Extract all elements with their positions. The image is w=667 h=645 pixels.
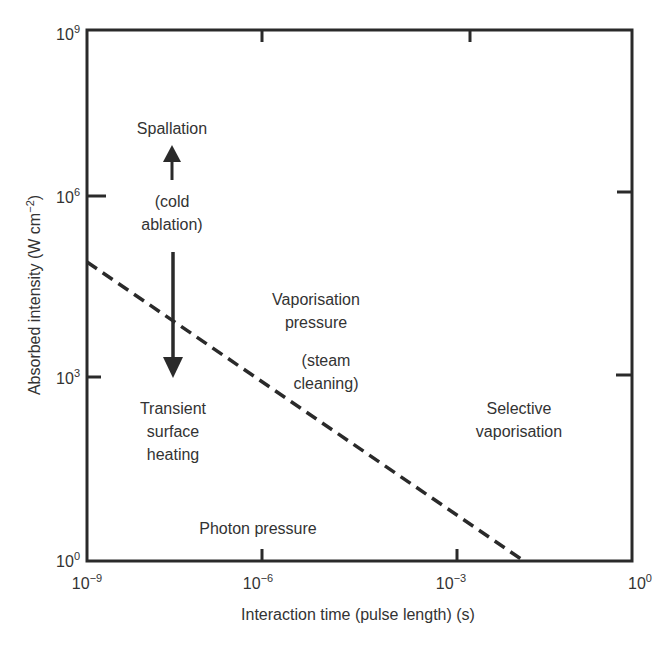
annotation-transient-line3: heating xyxy=(147,446,200,463)
annotation-transient-line2: surface xyxy=(147,423,200,440)
annotation-steam-line1: (steam xyxy=(302,352,351,369)
arrow-up-icon xyxy=(163,145,181,180)
y-tick-label-6: 106 xyxy=(56,186,80,206)
y-tick-label-0: 100 xyxy=(56,550,80,570)
annotation-transient-line1: Transient xyxy=(140,400,207,417)
annotation-vaporisation-line1: Vaporisation xyxy=(272,291,360,308)
annotation-cold-line1: (cold xyxy=(155,193,190,210)
annotation-spallation: Spallation xyxy=(137,120,207,137)
y-tick-labels: 109 106 103 100 xyxy=(56,23,80,570)
annotation-selective-line2: vaporisation xyxy=(476,423,562,440)
annotation-vaporisation-line2: pressure xyxy=(285,314,347,331)
x-tick-label-minus3: 10−3 xyxy=(436,572,466,592)
x-tick-labels: 10−9 10−6 10−3 100 xyxy=(72,572,652,592)
x-axis-title: Interaction time (pulse length) (s) xyxy=(241,606,475,623)
x-tick-label-minus6: 10−6 xyxy=(243,572,273,592)
chart: Spallation (cold ablation) Vaporisation … xyxy=(0,0,667,645)
x-tick-label-0: 100 xyxy=(628,572,652,592)
annotation-steam-line2: cleaning) xyxy=(294,375,359,392)
annotation-photon-pressure: Photon pressure xyxy=(199,520,317,537)
annotation-selective-line1: Selective xyxy=(487,400,552,417)
y-tick-label-3: 103 xyxy=(56,367,80,387)
x-tick-label-minus9: 10−9 xyxy=(72,572,102,592)
y-axis-title: Absorbed intensity (W cm−2) xyxy=(24,195,43,395)
y-tick-label-9: 109 xyxy=(56,23,80,43)
annotation-cold-line2: ablation) xyxy=(141,216,202,233)
